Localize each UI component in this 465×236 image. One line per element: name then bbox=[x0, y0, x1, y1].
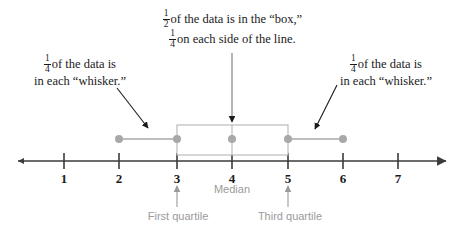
marker-third-quartile bbox=[284, 135, 292, 143]
number-line-left-arrowhead bbox=[18, 158, 24, 164]
box-plot bbox=[115, 125, 347, 155]
marker-median bbox=[228, 135, 236, 143]
arrow-left-whisker bbox=[117, 88, 148, 128]
boxplot-figure: 1 4 of the data is in each “whisker.” 1 … bbox=[0, 0, 465, 236]
quartile-arrows bbox=[177, 186, 288, 207]
arrow-right-whisker bbox=[315, 85, 337, 129]
annotation-arrows bbox=[117, 53, 337, 129]
marker-minimum bbox=[115, 135, 123, 143]
boxplot-vector-layer bbox=[0, 0, 465, 236]
marker-first-quartile bbox=[173, 135, 181, 143]
marker-maximum bbox=[339, 135, 347, 143]
